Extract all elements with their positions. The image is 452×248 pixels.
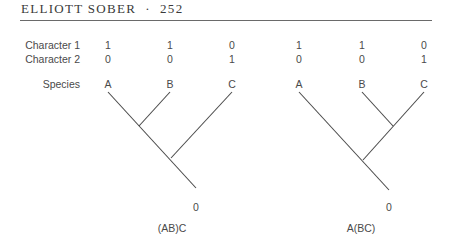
root-state-left: 0: [186, 201, 206, 213]
tree-ab-c: [108, 92, 232, 188]
tree-caption-right: A(BC): [341, 222, 381, 234]
root-state-right: 0: [379, 201, 399, 213]
tree-a-bc: [299, 92, 424, 190]
tree-caption-left: (AB)C: [152, 222, 192, 234]
